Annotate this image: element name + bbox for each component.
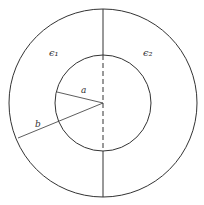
radius-b xyxy=(18,103,103,138)
label-b: b xyxy=(35,119,41,129)
radius-a xyxy=(57,92,103,103)
label-epsilon-1: ϵ₁ xyxy=(49,47,59,58)
dielectric-diagram: ϵ₁ ϵ₂ a b xyxy=(0,0,204,205)
label-epsilon-2: ϵ₂ xyxy=(143,47,153,58)
label-a: a xyxy=(81,85,86,95)
